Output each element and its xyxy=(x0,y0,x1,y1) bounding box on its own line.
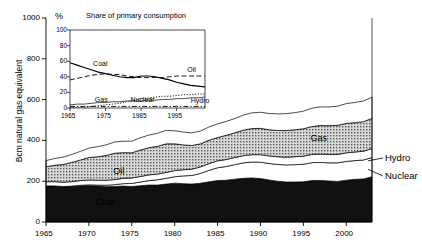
inset-series-label-hydro: Hydro xyxy=(191,97,210,104)
inset-series-label-coal: Coal xyxy=(93,60,107,67)
inset-series-label-nuclear: Nuclear xyxy=(130,96,154,103)
chart-figure: 02004006008001000 1965197019751980198519… xyxy=(0,0,422,244)
inset-plot-area xyxy=(0,0,422,244)
inset-series-label-gas: Gas xyxy=(95,96,108,103)
inset-series-label-oil: Oil xyxy=(187,66,196,73)
